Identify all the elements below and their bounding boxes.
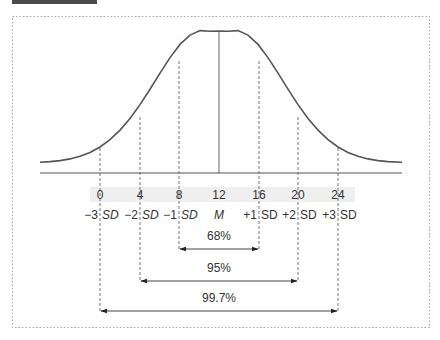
sd-label-minus1-unit: SD [181, 208, 198, 222]
tick-24: 24 [331, 188, 345, 202]
sd-label-minus3-unit: SD [102, 208, 119, 222]
normal-distribution-chart: 0 4 8 12 16 20 24 −3 SD −2 SD −1 SD M +1… [0, 0, 440, 340]
sd-label-minus2-unit: SD [142, 208, 159, 222]
sd-label-plus3-unit: SD [340, 208, 357, 222]
tick-8: 8 [176, 188, 183, 202]
bell-curve [40, 31, 402, 163]
mean-label: M [214, 208, 224, 222]
tick-0: 0 [97, 188, 104, 202]
sd-label-plus2-unit: SD [300, 208, 317, 222]
tick-20: 20 [291, 188, 305, 202]
sd-label-plus3-num: +3 [322, 208, 336, 222]
interval-95-label: 95% [207, 261, 231, 275]
sd-label-minus1-num: −1 [163, 208, 177, 222]
tick-12: 12 [212, 188, 226, 202]
interval-997-label: 99.7% [202, 291, 236, 305]
sd-label-minus3-num: −3 [84, 208, 98, 222]
interval-68-label: 68% [207, 229, 231, 243]
sd-label-plus1-unit: SD [261, 208, 278, 222]
tick-4: 4 [137, 188, 144, 202]
sd-label-plus2-num: +2 [282, 208, 296, 222]
sd-label-minus2-num: −2 [124, 208, 138, 222]
sd-label-plus1-num: +1 [243, 208, 257, 222]
sd-labels: −3 SD −2 SD −1 SD M +1 SD +2 SD +3 SD [84, 208, 357, 222]
tick-16: 16 [252, 188, 266, 202]
